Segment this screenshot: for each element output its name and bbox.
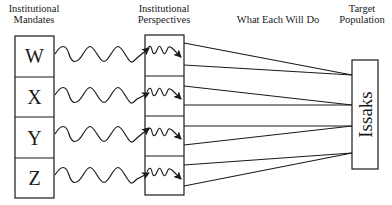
perspectives-column (145, 35, 184, 195)
mandate-x: X (27, 86, 42, 108)
inner-wavy-arrow-x (147, 88, 181, 99)
wavy-arrow-w (55, 47, 149, 63)
wavy-arrow-x (55, 88, 149, 104)
target-population-label: Issaks (355, 91, 376, 137)
inner-wavy-arrow-w (147, 46, 181, 57)
inner-wavy-arrow-z (147, 168, 181, 179)
wavy-arrow-y (55, 127, 149, 143)
inner-wavy-arrow-y (147, 128, 181, 139)
flow-diagram: W X Y Z Issaks (0, 0, 392, 205)
mandate-z: Z (28, 167, 40, 189)
mandate-y: Y (27, 127, 41, 149)
wavy-arrow-z (55, 168, 149, 184)
mandate-w: W (25, 45, 44, 67)
action-lines (184, 43, 352, 186)
